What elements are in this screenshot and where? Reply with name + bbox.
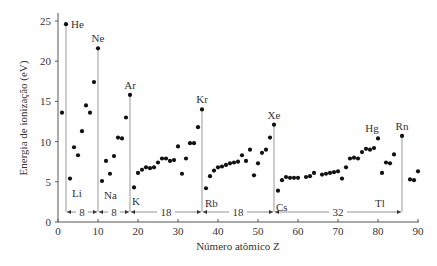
- data-point: [276, 189, 280, 193]
- data-point: [188, 141, 192, 145]
- element-label: Li: [72, 187, 82, 199]
- x-tick-label: 70: [333, 225, 345, 237]
- element-label: Tl: [375, 197, 385, 209]
- data-point: [280, 178, 284, 182]
- data-point: [192, 141, 196, 145]
- data-point: [68, 176, 72, 180]
- data-point: [224, 163, 228, 167]
- data-point: [364, 147, 368, 151]
- element-label: Ar: [124, 79, 136, 91]
- data-point: [124, 115, 128, 119]
- data-point: [252, 173, 256, 177]
- data-point: [248, 148, 252, 152]
- element-label: He: [71, 18, 84, 30]
- data-point: [256, 161, 260, 165]
- data-point: [160, 156, 164, 160]
- data-point: [388, 161, 392, 165]
- y-axis: 0510152025 Energia de ionização (eV): [17, 13, 58, 228]
- data-point: [80, 129, 84, 133]
- data-point: [184, 156, 188, 160]
- data-point: [128, 93, 132, 97]
- data-point: [292, 176, 296, 180]
- data-point: [288, 176, 292, 180]
- period-span-label: 8: [79, 206, 85, 218]
- y-tick-labels: 0510152025: [40, 15, 58, 228]
- data-point: [204, 186, 208, 190]
- data-point: [96, 46, 100, 50]
- data-point: [196, 125, 200, 129]
- data-point: [148, 166, 152, 170]
- data-point: [296, 176, 300, 180]
- data-point: [168, 159, 172, 163]
- period-span-label: 8: [111, 206, 117, 218]
- noble-gas-lines: [66, 24, 402, 212]
- data-point: [352, 156, 356, 160]
- data-point: [408, 177, 412, 181]
- period-span-label: 18: [233, 206, 245, 218]
- data-point: [244, 159, 248, 163]
- element-label: Cs: [276, 201, 288, 213]
- period-span-label: 18: [161, 206, 173, 218]
- data-point: [176, 144, 180, 148]
- data-point: [72, 145, 76, 149]
- data-point: [336, 169, 340, 173]
- data-point: [84, 103, 88, 107]
- data-point: [100, 179, 104, 183]
- data-point: [332, 170, 336, 174]
- data-point: [144, 165, 148, 169]
- element-label: Kr: [196, 93, 208, 105]
- data-point: [172, 158, 176, 162]
- period-span-label: 32: [333, 206, 344, 218]
- x-axis-label: Número atômico Z: [196, 240, 280, 252]
- y-tick-label: 5: [46, 176, 52, 188]
- y-tick-label: 15: [40, 95, 52, 107]
- data-point: [268, 135, 272, 139]
- data-point: [412, 178, 416, 182]
- data-point: [152, 165, 156, 169]
- data-point: [164, 156, 168, 160]
- data-point: [136, 171, 140, 175]
- data-point: [392, 152, 396, 156]
- element-label: Rn: [396, 120, 409, 132]
- data-point: [400, 134, 404, 138]
- data-point: [232, 160, 236, 164]
- data-points: [60, 22, 420, 193]
- data-point: [324, 172, 328, 176]
- data-point: [308, 174, 312, 178]
- data-point: [140, 168, 144, 172]
- x-tick-label: 60: [293, 225, 305, 237]
- data-point: [304, 175, 308, 179]
- element-label: Na: [104, 189, 117, 201]
- data-point: [376, 136, 380, 140]
- element-label: Rb: [205, 197, 218, 209]
- data-point: [272, 123, 276, 127]
- data-point: [340, 176, 344, 180]
- data-point: [76, 153, 80, 157]
- data-point: [372, 146, 376, 150]
- y-tick-label: 25: [40, 15, 52, 27]
- data-point: [132, 185, 136, 189]
- y-axis-label: Energia de ionização (eV): [17, 60, 30, 175]
- data-point: [216, 165, 220, 169]
- data-point: [156, 160, 160, 164]
- x-tick-label: 50: [253, 225, 265, 237]
- x-tick-label: 30: [173, 225, 185, 237]
- data-point: [116, 135, 120, 139]
- data-point: [384, 160, 388, 164]
- data-point: [240, 153, 244, 157]
- data-point: [200, 107, 204, 111]
- data-point: [416, 169, 420, 173]
- data-point: [368, 148, 372, 152]
- y-tick-label: 0: [46, 216, 52, 228]
- x-tick-label: 90: [413, 225, 425, 237]
- ionization-energy-chart: 0510152025 Energia de ionização (eV) 010…: [0, 0, 437, 266]
- y-tick-label: 10: [40, 136, 52, 148]
- element-label: Hg: [365, 122, 379, 134]
- period-spans: 88181832: [67, 206, 401, 218]
- data-point: [356, 156, 360, 160]
- element-label: Ne: [92, 32, 105, 44]
- data-point: [112, 154, 116, 158]
- x-axis: 0102030405060708090 Número atômico Z: [55, 219, 424, 252]
- data-point: [328, 171, 332, 175]
- data-point: [360, 150, 364, 154]
